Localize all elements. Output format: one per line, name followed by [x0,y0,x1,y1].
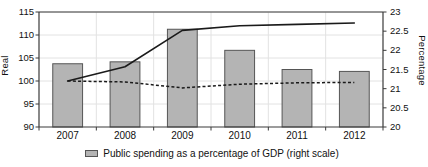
y-axis-left-tick: 100 [4,81,34,82]
bar-2008 [110,62,140,127]
y-axis-right-tick: 21 [390,89,420,90]
y-axis-left-tick-label: 90 [4,122,34,132]
y-axis-right-tick-label: 21.5 [390,65,420,75]
y-axis-left-tick: 95 [4,104,34,105]
chart-legend: Public spending as a percentage of GDP (… [0,148,424,159]
bar-2009 [167,29,197,127]
y-axis-left-tick: 90 [4,127,34,128]
y-axis-left-tick-label: 110 [4,30,34,40]
y-axis-right-tick: 20 [390,127,420,128]
y-axis-right-tick-label: 22.5 [390,26,420,36]
y-axis-right-tick: 22 [390,50,420,51]
legend-label: Public spending as a percentage of GDP (… [103,148,339,159]
x-axis-tick-label-2012: 2012 [334,130,374,141]
x-axis-tick-label-2008: 2008 [105,130,145,141]
y-axis-left-tick: 105 [4,58,34,59]
x-axis-tick-label-2007: 2007 [48,130,88,141]
bar-2011 [282,70,312,128]
bar-2007 [53,64,83,127]
y-axis-right-tick-label: 20 [390,122,420,132]
x-axis-tick-label-2009: 2009 [162,130,202,141]
x-axis-tick-label-2011: 2011 [277,130,317,141]
y-axis-right-tick-label: 20.5 [390,103,420,113]
y-axis-left-tick: 110 [4,35,34,36]
y-axis-left-tick: 115 [4,12,34,13]
legend-swatch-icon [85,150,98,157]
y-axis-right-tick: 20.5 [390,108,420,109]
y-axis-left-tick-label: 100 [4,76,34,86]
x-axis-tick-label-2010: 2010 [220,130,260,141]
y-axis-left-tick-label: 105 [4,53,34,63]
y-axis-right-tick-label: 23 [390,7,420,17]
y-axis-left-tick-label: 95 [4,99,34,109]
y-axis-right-tick-label: 21 [390,84,420,94]
y-axis-right-tick-label: 22 [390,45,420,55]
y-axis-right-tick: 22.5 [390,31,420,32]
y-axis-right-tick: 23 [390,12,420,13]
y-axis-right-tick: 21.5 [390,70,420,71]
y-axis-left-tick-label: 115 [4,7,34,17]
bar-2010 [225,50,255,127]
bar-2012 [339,71,369,127]
